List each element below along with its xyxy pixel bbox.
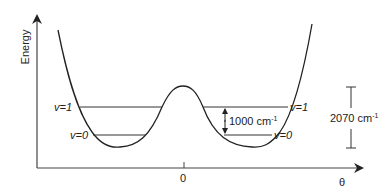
y-axis-label: Energy: [19, 27, 31, 67]
right-v0-label: v=0: [274, 130, 292, 141]
barrier-height-label: 2070 cm-1: [330, 113, 378, 124]
left-v0-label: v=0: [70, 130, 88, 141]
left-v1-label: v=1: [54, 102, 72, 113]
level-spacing-value: 1000 cm: [229, 115, 271, 127]
level-spacing-exponent: -1: [271, 115, 277, 122]
x-axis-label: θ: [339, 177, 345, 188]
barrier-height-value: 2070 cm: [330, 112, 372, 124]
x-tick-zero-label: 0: [180, 173, 186, 184]
right-v1-label: v=1: [290, 102, 308, 113]
level-spacing-label: 1000 cm-1: [229, 116, 277, 127]
barrier-height-exponent: -1: [372, 112, 378, 119]
double-well-diagram: Energy θ 0 v=1 v=0 v=1 v=0 1000 cm-1 207…: [0, 0, 390, 193]
diagram-graphics: [0, 0, 390, 193]
